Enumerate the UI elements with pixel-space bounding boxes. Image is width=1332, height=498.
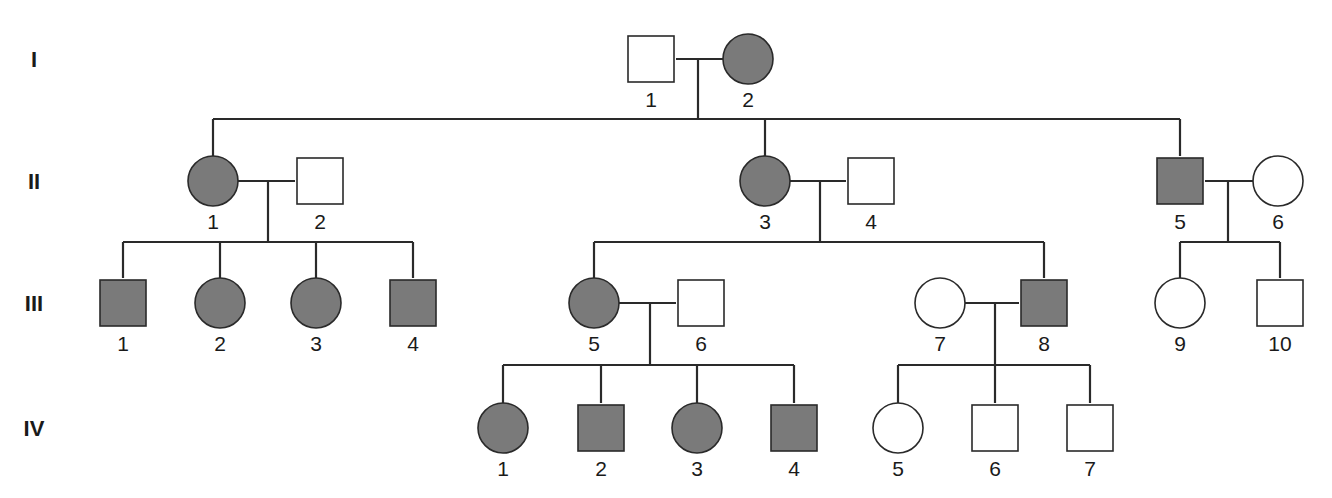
individual-iv-1: 1: [478, 403, 528, 480]
individual-iv-6: 6: [972, 405, 1018, 480]
individual-iii-2: 2: [195, 278, 245, 355]
generation-label: I: [31, 47, 37, 72]
individual-ii-1: 1: [188, 156, 238, 233]
affected-male-square-icon: [100, 280, 146, 326]
individual-number: 7: [1084, 457, 1096, 480]
individual-ii-3: 3: [740, 156, 790, 233]
individual-number: 6: [695, 332, 707, 355]
individual-iv-5: 5: [873, 403, 923, 480]
individual-number: 5: [892, 457, 904, 480]
generation-labels: IIIIIIIV: [24, 47, 45, 441]
individual-iv-2: 2: [578, 405, 624, 480]
affected-female-circle-icon: [723, 34, 773, 84]
unaffected-male-square-icon: [1257, 280, 1303, 326]
unaffected-female-circle-icon: [1155, 278, 1205, 328]
generation-label: IV: [24, 416, 45, 441]
individual-number: 1: [207, 210, 219, 233]
unaffected-male-square-icon: [628, 36, 674, 82]
individual-number: 2: [742, 88, 754, 111]
affected-female-circle-icon: [195, 278, 245, 328]
individual-number: 2: [214, 332, 226, 355]
affected-female-circle-icon: [672, 403, 722, 453]
individual-iii-1: 1: [100, 280, 146, 355]
individual-number: 3: [310, 332, 322, 355]
affected-male-square-icon: [1157, 158, 1203, 204]
affected-female-circle-icon: [740, 156, 790, 206]
affected-male-square-icon: [771, 405, 817, 451]
individual-ii-2: 2: [297, 158, 343, 233]
individual-number: 4: [788, 457, 800, 480]
individual-iii-8: 8: [1021, 280, 1067, 355]
individual-iii-3: 3: [291, 278, 341, 355]
pedigree-svg: 12123456123456789101234567 IIIIIIIV: [0, 0, 1332, 498]
affected-female-circle-icon: [478, 403, 528, 453]
individual-iii-5: 5: [569, 278, 619, 355]
individual-number: 5: [588, 332, 600, 355]
affected-male-square-icon: [390, 280, 436, 326]
pedigree-individuals: 12123456123456789101234567: [100, 34, 1303, 480]
individual-iii-9: 9: [1155, 278, 1205, 355]
individual-iv-3: 3: [672, 403, 722, 480]
unaffected-female-circle-icon: [1253, 156, 1303, 206]
individual-ii-6: 6: [1253, 156, 1303, 233]
individual-number: 4: [407, 332, 419, 355]
individual-number: 5: [1174, 210, 1186, 233]
unaffected-female-circle-icon: [915, 278, 965, 328]
individual-iv-7: 7: [1067, 405, 1113, 480]
individual-number: 3: [691, 457, 703, 480]
affected-male-square-icon: [578, 405, 624, 451]
individual-i-2: 2: [723, 34, 773, 111]
individual-number: 4: [865, 210, 877, 233]
generation-label: III: [25, 291, 43, 316]
unaffected-male-square-icon: [972, 405, 1018, 451]
unaffected-male-square-icon: [678, 280, 724, 326]
individual-ii-4: 4: [848, 158, 894, 233]
individual-number: 3: [759, 210, 771, 233]
individual-number: 8: [1038, 332, 1050, 355]
individual-number: 1: [497, 457, 509, 480]
affected-female-circle-icon: [188, 156, 238, 206]
pedigree-chart: 12123456123456789101234567 IIIIIIIV: [0, 0, 1332, 498]
individual-number: 9: [1174, 332, 1186, 355]
individual-iii-10: 10: [1257, 280, 1303, 355]
unaffected-male-square-icon: [1067, 405, 1113, 451]
generation-label: II: [28, 169, 40, 194]
individual-i-1: 1: [628, 36, 674, 111]
individual-iii-7: 7: [915, 278, 965, 355]
individual-number: 1: [117, 332, 129, 355]
individual-iii-6: 6: [678, 280, 724, 355]
individual-iv-4: 4: [771, 405, 817, 480]
individual-ii-5: 5: [1157, 158, 1203, 233]
individual-number: 2: [314, 210, 326, 233]
individual-number: 6: [989, 457, 1001, 480]
affected-male-square-icon: [1021, 280, 1067, 326]
unaffected-female-circle-icon: [873, 403, 923, 453]
individual-number: 7: [934, 332, 946, 355]
individual-number: 1: [645, 88, 657, 111]
unaffected-male-square-icon: [297, 158, 343, 204]
individual-iii-4: 4: [390, 280, 436, 355]
individual-number: 2: [595, 457, 607, 480]
individual-number: 10: [1268, 332, 1291, 355]
unaffected-male-square-icon: [848, 158, 894, 204]
affected-female-circle-icon: [291, 278, 341, 328]
individual-number: 6: [1272, 210, 1284, 233]
affected-female-circle-icon: [569, 278, 619, 328]
